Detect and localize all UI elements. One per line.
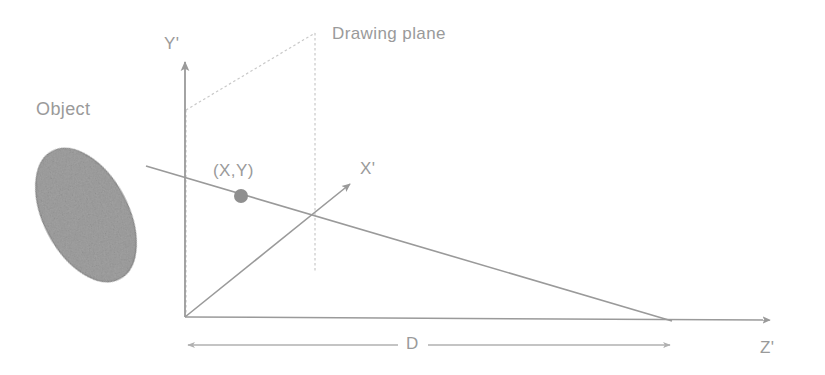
projection-ray — [146, 166, 672, 321]
label-drawing-plane: Drawing plane — [332, 24, 446, 43]
axis-z-line — [185, 317, 770, 320]
point-marker-xy — [234, 189, 248, 203]
label-axis-y: Y' — [164, 34, 179, 53]
label-object: Object — [36, 99, 90, 119]
perspective-projection-diagram: Object Drawing plane Y' X' Z' (X,Y) D — [0, 0, 825, 375]
object-ellipse — [15, 132, 157, 299]
axis-x-line — [185, 184, 350, 317]
label-point-xy: (X,Y) — [213, 161, 254, 180]
drawing-plane-edge-top — [186, 33, 315, 110]
label-axis-x: X' — [360, 159, 375, 178]
diagram-canvas: Object Drawing plane Y' X' Z' (X,Y) D — [0, 0, 825, 375]
label-distance-d: D — [406, 334, 419, 353]
label-axis-z: Z' — [760, 338, 774, 357]
